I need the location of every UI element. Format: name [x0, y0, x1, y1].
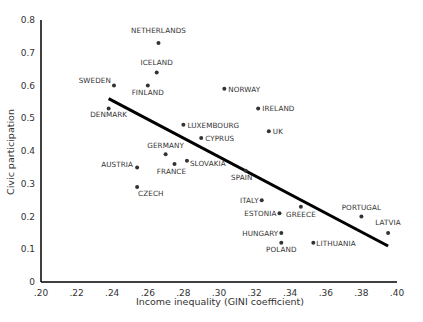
- y-tick-label: 0.8: [21, 15, 36, 25]
- data-point: IRELAND: [256, 104, 295, 113]
- point-marker: [185, 159, 189, 163]
- point-marker: [260, 198, 264, 202]
- point-marker: [279, 231, 283, 235]
- point-marker: [135, 165, 139, 169]
- point-marker: [222, 87, 226, 91]
- y-tick-label: 0.3: [21, 179, 35, 189]
- point-label: FRANCE: [157, 167, 187, 176]
- data-point: ESTONIA: [244, 209, 281, 218]
- point-marker: [299, 205, 303, 209]
- point-marker: [156, 41, 160, 45]
- data-point: LATVIA: [375, 218, 400, 235]
- point-label: IRELAND: [262, 104, 295, 113]
- data-point: FRANCE: [157, 162, 187, 176]
- scatter-chart: 00.10.20.30.40.50.60.70.8 .20.22.24.26.2…: [0, 0, 423, 322]
- y-tick-label: 0.5: [21, 113, 35, 123]
- point-marker: [311, 241, 315, 245]
- data-points: NETHERLANDSICELANDFINLANDSWEDENNORWAYDEN…: [79, 26, 401, 254]
- point-marker: [164, 152, 168, 156]
- y-tick-label: 0.6: [21, 81, 36, 91]
- data-point: SWEDEN: [79, 76, 116, 88]
- point-label: CZECH: [138, 189, 163, 198]
- data-point: SLOVAKIA: [185, 159, 226, 168]
- data-point: PORTUGAL: [342, 203, 381, 219]
- point-label: UK: [273, 127, 283, 136]
- data-point: POLAND: [266, 241, 297, 254]
- x-tick-label: .40: [390, 288, 405, 298]
- data-point: GERMANY: [147, 141, 184, 156]
- point-label: GERMANY: [147, 141, 184, 150]
- point-marker: [173, 162, 177, 166]
- point-label: HUNGARY: [242, 229, 279, 238]
- point-label: ICELAND: [141, 58, 174, 67]
- data-point: DENMARK: [90, 106, 127, 119]
- point-label: LUXEMBOURG: [187, 121, 239, 130]
- point-label: DENMARK: [90, 110, 127, 119]
- data-point: CZECH: [135, 185, 163, 198]
- point-marker: [112, 84, 116, 88]
- point-marker: [155, 70, 159, 74]
- point-marker: [278, 211, 282, 215]
- point-label: NETHERLANDS: [131, 26, 186, 35]
- y-tick-label: 0: [29, 277, 35, 287]
- point-marker: [199, 136, 203, 140]
- point-label: SPAIN: [231, 173, 252, 182]
- point-label: SWEDEN: [79, 76, 111, 85]
- x-tick-label: .20: [34, 288, 49, 298]
- y-tick-label: 0.1: [21, 244, 35, 254]
- data-point: SPAIN: [231, 169, 252, 182]
- point-label: PORTUGAL: [342, 203, 381, 212]
- point-label: LATVIA: [375, 218, 400, 227]
- data-point: ITALY: [240, 196, 264, 205]
- data-point: ICELAND: [141, 58, 174, 74]
- point-label: ESTONIA: [244, 209, 276, 218]
- point-marker: [181, 123, 185, 127]
- x-axis-label: Income inequality (GINI coefficient): [136, 296, 304, 307]
- data-point: CYPRUS: [199, 134, 234, 143]
- point-label: ITALY: [240, 196, 259, 205]
- x-tick-label: .36: [319, 288, 334, 298]
- data-point: HUNGARY: [242, 229, 283, 238]
- point-label: NORWAY: [228, 85, 260, 94]
- x-tick-label: .24: [105, 288, 120, 298]
- y-axis-label: Civic participation: [5, 109, 16, 195]
- y-tick-label: 0.4: [21, 146, 36, 156]
- point-label: FINLAND: [132, 88, 165, 97]
- point-marker: [386, 231, 390, 235]
- point-label: CYPRUS: [205, 134, 234, 143]
- point-label: POLAND: [266, 245, 297, 254]
- data-point: AUSTRIA: [101, 160, 139, 169]
- data-point: LITHUANIA: [311, 239, 355, 248]
- y-axis: 00.10.20.30.40.50.60.70.8: [21, 15, 41, 287]
- point-marker: [267, 129, 271, 133]
- data-point: NETHERLANDS: [131, 26, 186, 45]
- y-tick-label: 0.2: [21, 212, 35, 222]
- data-point: NORWAY: [222, 85, 260, 94]
- x-tick-label: .38: [354, 288, 369, 298]
- point-label: LITHUANIA: [316, 239, 355, 248]
- point-label: SLOVAKIA: [190, 159, 226, 168]
- point-label: GREECE: [286, 210, 316, 219]
- data-point: FINLAND: [132, 84, 165, 97]
- data-point: LUXEMBOURG: [181, 121, 239, 130]
- data-point: UK: [267, 127, 283, 136]
- point-label: AUSTRIA: [101, 160, 133, 169]
- x-tick-label: .22: [69, 288, 83, 298]
- y-tick-label: 0.7: [21, 48, 35, 58]
- point-marker: [256, 106, 260, 110]
- point-marker: [359, 215, 363, 219]
